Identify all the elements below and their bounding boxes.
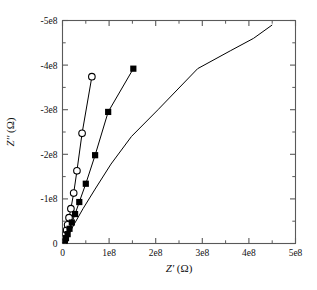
x-tick-label: 1e8 xyxy=(102,248,116,258)
x-axis-title: Z' (Ω) xyxy=(166,262,193,275)
y-tick-label: 0 xyxy=(53,239,58,249)
data-point-circle xyxy=(79,130,86,137)
x-tick-label: 0 xyxy=(60,248,65,258)
data-point-square xyxy=(105,109,111,115)
data-point-square xyxy=(130,66,136,72)
x-tick-label: 2e8 xyxy=(149,248,163,258)
y-tick-label: -4e8 xyxy=(41,61,58,71)
data-point-square xyxy=(76,199,82,205)
data-point-square xyxy=(72,211,78,217)
data-point-square xyxy=(83,181,89,187)
svg-text:Z'' (Ω): Z'' (Ω) xyxy=(4,117,17,146)
data-point-circle xyxy=(70,190,77,197)
y-tick-label: -3e8 xyxy=(41,105,58,115)
x-tick-label: 4e8 xyxy=(242,248,256,258)
data-point-circle xyxy=(74,168,81,175)
y-tick-label: -1e8 xyxy=(41,194,58,204)
x-tick-label: 5e8 xyxy=(289,248,303,258)
x-tick-label: 3e8 xyxy=(195,248,209,258)
data-point-square xyxy=(92,152,98,158)
impedance-chart: 01e82e83e84e85e80-1e8-2e8-3e8-4e8-5e8Z' … xyxy=(0,0,317,290)
svg-text:Z' (Ω): Z' (Ω) xyxy=(166,262,193,275)
nyquist-plot-figure: 01e82e83e84e85e80-1e8-2e8-3e8-4e8-5e8Z' … xyxy=(0,0,317,290)
series-open-circles xyxy=(60,73,95,246)
y-axis-title: Z'' (Ω) xyxy=(4,117,17,146)
series-line xyxy=(63,25,272,244)
y-tick-label: -2e8 xyxy=(41,150,58,160)
plot-frame xyxy=(63,21,296,244)
series-line-only xyxy=(63,25,272,244)
y-tick-label: -5e8 xyxy=(41,16,58,26)
data-point-circle xyxy=(89,73,96,80)
